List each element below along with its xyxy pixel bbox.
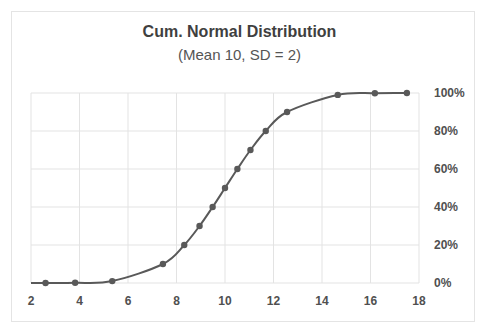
y-tick-label: 40%: [434, 200, 458, 214]
x-tick-label: 12: [267, 294, 281, 308]
x-tick-label: 8: [173, 294, 180, 308]
data-point: [247, 147, 253, 153]
data-point: [72, 280, 78, 286]
data-point: [181, 242, 187, 248]
x-tick-label: 16: [364, 294, 378, 308]
data-point: [209, 204, 215, 210]
x-tick-label: 6: [125, 294, 132, 308]
x-tick-label: 18: [412, 294, 426, 308]
data-point: [42, 280, 48, 286]
y-tick-label: 20%: [434, 238, 458, 252]
y-tick-label: 100%: [434, 86, 465, 100]
data-point: [109, 278, 115, 284]
y-tick-label: 0%: [434, 276, 452, 290]
y-tick-label: 80%: [434, 124, 458, 138]
data-point: [404, 90, 410, 96]
x-tick-label: 10: [218, 294, 232, 308]
data-point: [372, 90, 378, 96]
data-point: [263, 128, 269, 134]
data-point: [234, 166, 240, 172]
x-tick-label: 2: [28, 294, 35, 308]
x-tick-label: 14: [315, 294, 329, 308]
data-point: [335, 92, 341, 98]
y-tick-label: 60%: [434, 162, 458, 176]
x-tick-label: 4: [76, 294, 83, 308]
chart-plot: 24681012141618 0%20%40%60%80%100%: [0, 0, 479, 331]
series-line: [31, 93, 407, 283]
data-point: [222, 185, 228, 191]
data-point: [284, 109, 290, 115]
data-point: [196, 223, 202, 229]
data-point: [160, 261, 166, 267]
